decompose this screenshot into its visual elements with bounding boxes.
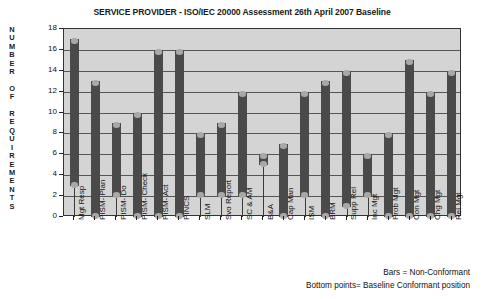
- bar-top-marker: [134, 112, 141, 118]
- y-axis-tick-mark: [59, 216, 63, 217]
- x-axis-tick-mark: [388, 216, 389, 220]
- x-axis-tick-mark: [115, 216, 116, 220]
- bar: [175, 50, 184, 217]
- y-axis-tick-mark: [59, 132, 63, 133]
- x-axis-tick-mark: [199, 216, 200, 220]
- bar: [70, 39, 79, 185]
- bar: [363, 154, 372, 196]
- y-axis-tick-label: 6: [35, 148, 57, 157]
- y-axis-tick-label: 18: [35, 23, 57, 32]
- gridline: [64, 175, 460, 176]
- bar-top-marker: [260, 153, 267, 159]
- baseline-stem: [221, 196, 222, 217]
- x-axis-tick-label: Inc Mgt: [370, 194, 379, 220]
- gridline: [64, 113, 460, 114]
- x-axis-tick-mark: [262, 216, 263, 220]
- x-axis-tick-mark: [325, 216, 326, 220]
- legend-note-bars: Bars = Non-Conformant: [383, 268, 470, 277]
- x-axis-tick-mark: [367, 216, 368, 220]
- x-axis-tick-label: PINCS: [182, 196, 191, 220]
- bar-top-marker: [155, 49, 162, 55]
- x-axis-tick-mark: [304, 216, 305, 220]
- x-axis-tick-mark: [430, 216, 431, 220]
- x-axis-tick-mark: [241, 216, 242, 220]
- x-axis-tick-mark: [136, 216, 137, 220]
- gridline: [64, 71, 460, 72]
- bar-top-marker: [343, 70, 350, 76]
- y-axis-tick-mark: [59, 70, 63, 71]
- baseline-point-marker: [260, 161, 267, 167]
- baseline-stem: [200, 196, 201, 217]
- gridline: [64, 50, 460, 51]
- y-axis-tick-mark: [59, 195, 63, 196]
- x-axis-tick-label: ISM: [307, 206, 316, 220]
- y-axis-tick-label: 12: [35, 86, 57, 95]
- x-axis-tick-mark: [220, 216, 221, 220]
- y-axis-tick-label: 14: [35, 65, 57, 74]
- gridline: [64, 92, 460, 93]
- x-axis-tick-label: Rel Mgt: [454, 192, 463, 220]
- x-axis-tick-mark: [94, 216, 95, 220]
- legend-note-points: Bottom points= Baseline Conformant posit…: [306, 281, 470, 290]
- x-axis-tick-label: Chg Mgt: [433, 190, 442, 220]
- x-axis-tick-label: Supp Rel: [349, 187, 358, 220]
- bar-top-marker: [113, 122, 120, 128]
- bar-top-marker: [218, 122, 225, 128]
- chart-title: SERVICE PROVIDER - ISO/IEC 20000 Assessm…: [0, 7, 484, 17]
- baseline-stem: [116, 196, 117, 217]
- y-axis-tick-mark: [59, 153, 63, 154]
- y-axis-label-letter: S: [5, 203, 19, 211]
- baseline-stem: [368, 196, 369, 217]
- baseline-point-marker: [301, 192, 308, 198]
- x-axis-tick-mark: [157, 216, 158, 220]
- baseline-point-marker: [197, 192, 204, 198]
- x-axis-tick-label: B&A: [266, 204, 275, 220]
- x-axis-tick-label: SC & AM: [245, 188, 254, 220]
- bar: [300, 92, 309, 196]
- bar-top-marker: [176, 49, 183, 55]
- y-axis-tick-label: 8: [35, 127, 57, 136]
- baseline-stem: [263, 165, 264, 217]
- x-axis-tick-mark: [178, 216, 179, 220]
- chart-root: SERVICE PROVIDER - ISO/IEC 20000 Assessm…: [0, 0, 484, 299]
- baseline-stem: [74, 186, 75, 217]
- y-axis-tick-mark: [59, 112, 63, 113]
- x-axis-tick-mark: [346, 216, 347, 220]
- x-axis-tick-label: PISM- Plan: [98, 180, 107, 220]
- y-axis-tick-label: 4: [35, 169, 57, 178]
- bar-top-marker: [448, 70, 455, 76]
- x-axis-tick-mark: [73, 216, 74, 220]
- x-axis-tick-label: PISM- Act: [161, 184, 170, 220]
- bar: [321, 81, 330, 217]
- bar-top-marker: [197, 132, 204, 138]
- bar-top-marker: [301, 91, 308, 97]
- baseline-stem: [305, 196, 306, 217]
- x-axis-tick-label: PISM- Check: [140, 173, 149, 220]
- y-axis-tick-label: 0: [35, 211, 57, 220]
- x-axis-tick-label: Cap Man: [286, 188, 295, 220]
- x-axis-tick-mark: [409, 216, 410, 220]
- x-axis-tick-label: SLM: [203, 204, 212, 220]
- x-axis-tick-mark: [283, 216, 284, 220]
- baseline-stem: [242, 196, 243, 217]
- bar-top-marker: [92, 80, 99, 86]
- x-axis-tick-label: BRM: [328, 202, 337, 220]
- gridline: [64, 133, 460, 134]
- bar-top-marker: [427, 91, 434, 97]
- x-axis-tick-label: Svo Report: [224, 180, 233, 220]
- y-axis-tick-label: 2: [35, 190, 57, 199]
- y-axis-tick-label: 16: [35, 44, 57, 53]
- x-axis-tick-label: Mgt Resp: [77, 186, 86, 220]
- y-axis-tick-mark: [59, 28, 63, 29]
- x-axis-tick-mark: [451, 216, 452, 220]
- x-axis-tick-label: Con Mgt: [412, 190, 421, 220]
- x-axis-tick-label: PISM- Do: [119, 185, 128, 220]
- y-axis-tick-mark: [59, 174, 63, 175]
- y-axis-tick-label: 10: [35, 107, 57, 116]
- bar: [196, 133, 205, 196]
- y-axis-tick-mark: [59, 49, 63, 50]
- bar: [238, 92, 247, 196]
- x-axis-tick-label: Prob Mgt: [391, 188, 400, 220]
- bar-top-marker: [239, 91, 246, 97]
- y-axis-tick-mark: [59, 91, 63, 92]
